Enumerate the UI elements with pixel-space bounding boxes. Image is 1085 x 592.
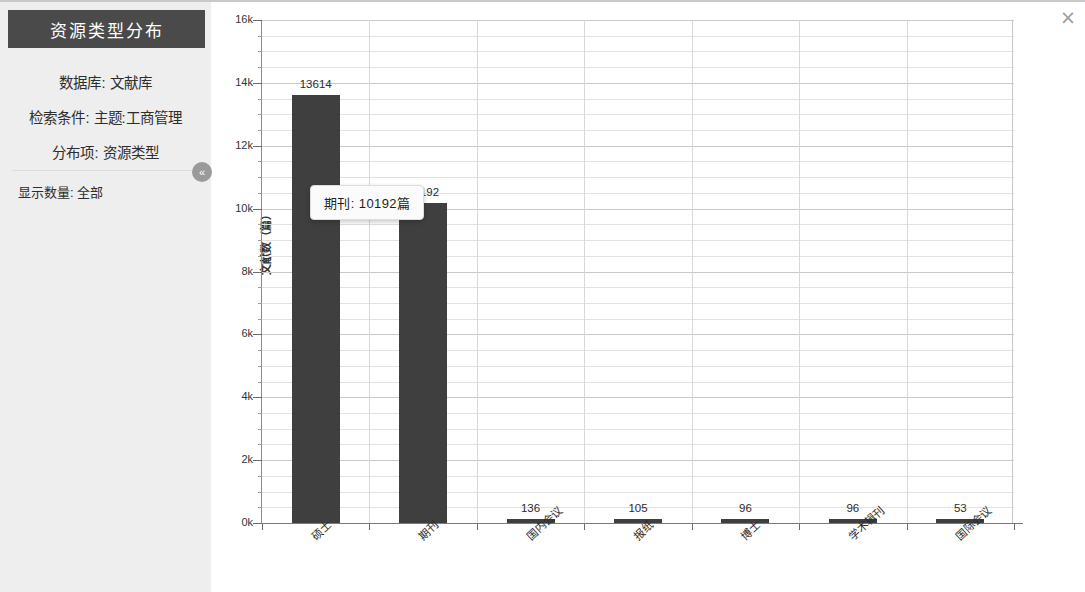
gridline-major [262,20,1014,21]
plot-area: 0k2k4k6k8k10k12k14k16k136141019213610596… [261,20,1013,523]
sidebar-header: 资源类型分布 [8,10,205,48]
y-axis-tick [253,20,262,21]
meta-value-database: 文献库 [110,71,152,92]
category-separator [692,20,693,523]
bar-value-label: 96 [846,502,859,514]
y-axis-tick-minor [258,67,262,68]
gridline-minor [262,177,1014,178]
bar-value-label: 13614 [300,78,332,90]
y-axis-tick [253,83,262,84]
y-axis-tick-label: 14k [213,76,253,88]
y-axis-tick [253,397,262,398]
resource-type-distribution-window: 资源类型分布 数据库: 文献库 检索条件: 主题:工商管理 分布项: 资源类型 … [0,0,1085,592]
query-summary-list: 数据库: 文献库 检索条件: 主题:工商管理 分布项: 资源类型 [0,64,211,169]
gridline-minor [262,444,1014,445]
bar-value-label: 96 [739,502,752,514]
y-axis-tick-minor [258,224,262,225]
x-axis-tick [262,523,263,530]
bar-value-label: 53 [954,502,967,514]
y-axis-tick-minor [258,444,262,445]
gridline-minor [262,256,1014,257]
bar-硕士[interactable] [292,95,340,523]
bar-value-label: 136 [521,502,540,514]
gridline-minor [262,476,1014,477]
gridline-minor [262,429,1014,430]
gridline-major [262,272,1014,273]
gridline-minor [262,51,1014,52]
y-axis-tick-minor [258,507,262,508]
y-axis-tick-minor [258,99,262,100]
meta-row-database: 数据库: 文献库 [0,64,211,99]
x-axis-tick [1014,523,1015,530]
gridline-minor [262,319,1014,320]
x-axis-tick [907,523,908,530]
gridline-major [262,397,1014,398]
y-axis-tick-minor [258,366,262,367]
gridline-minor [262,114,1014,115]
y-axis-tick-minor [258,413,262,414]
gridline-minor [262,67,1014,68]
category-separator [799,20,800,523]
meta-row-distribution-field: 分布项: 资源类型 [0,134,211,169]
close-icon[interactable]: × [1057,6,1079,28]
y-axis-tick-label: 2k [213,453,253,465]
meta-value-distribution-field: 资源类型 [103,141,159,162]
y-axis-tick [253,209,262,210]
gridline-minor [262,303,1014,304]
y-axis-tick-minor [258,492,262,493]
y-axis-tick-minor [258,350,262,351]
x-axis-tick [477,523,478,530]
bar-value-label: 105 [628,502,647,514]
y-axis-tick-minor [258,36,262,37]
y-axis-tick-minor [258,240,262,241]
y-axis-tick [253,146,262,147]
category-separator [369,20,370,523]
gridline-minor [262,366,1014,367]
page-title: 资源类型分布 [50,17,164,42]
gridline-major [262,83,1014,84]
gridline-major [262,460,1014,461]
plot-right-border [1012,20,1013,523]
y-axis-tick-minor [258,476,262,477]
display-count-row: 显示数量: 全部 [0,182,211,201]
sidebar-collapse-button[interactable]: « [192,162,212,182]
y-axis-tick-label: 12k [213,139,253,151]
y-axis-tick [253,272,262,273]
y-axis-tick-minor [258,319,262,320]
gridline-minor [262,287,1014,288]
gridline-minor [262,130,1014,131]
x-axis-tick [799,523,800,530]
sidebar-divider [12,170,198,171]
gridline-minor [262,240,1014,241]
meta-label-database: 数据库: [59,71,105,92]
x-axis-tick [584,523,585,530]
y-axis-tick-label: 0k [213,516,253,528]
y-axis-tick-minor [258,161,262,162]
category-separator [477,20,478,523]
x-axis-tick [692,523,693,530]
y-axis-tick-minor [258,382,262,383]
y-axis-tick-minor [258,177,262,178]
meta-value-search-condition: 主题:工商管理 [94,106,182,127]
x-axis-tick [369,523,370,530]
y-axis-tick-minor [258,256,262,257]
y-axis-tick-minor [258,114,262,115]
y-axis-tick-minor [258,51,262,52]
y-axis-tick-minor [258,303,262,304]
display-count-value: 全部 [77,182,103,201]
meta-row-search-condition: 检索条件: 主题:工商管理 [0,99,211,134]
y-axis-tick-minor [258,429,262,430]
gridline-minor [262,161,1014,162]
gridline-minor [262,224,1014,225]
bar-tooltip: 期刊: 10192篇 [310,185,424,220]
gridline-minor [262,36,1014,37]
gridline-major [262,146,1014,147]
y-axis-tick-label: 16k [213,13,253,25]
meta-label-distribution-field: 分布项: [52,141,98,162]
gridline-minor [262,350,1014,351]
gridline-minor [262,492,1014,493]
bar-期刊[interactable] [399,203,447,523]
info-sidebar: 资源类型分布 数据库: 文献库 检索条件: 主题:工商管理 分布项: 资源类型 … [0,2,211,592]
bar-chart: 文献数（篇） 0k2k4k6k8k10k12k14k16k13614101921… [211,2,1085,592]
y-axis-tick-label: 8k [213,265,253,277]
